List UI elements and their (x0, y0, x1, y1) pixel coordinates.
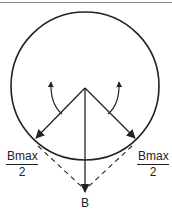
left-denominator: 2 (6, 165, 38, 180)
right-denominator: 2 (137, 165, 169, 180)
right-rotation-arrow-icon (108, 82, 119, 114)
right-numerator: Bmax (137, 150, 169, 165)
resultant-label: B (79, 197, 91, 209)
left-rotation-arrow-icon (51, 82, 62, 114)
phasor-diagram (0, 0, 172, 216)
right-dashed-construction (88, 146, 132, 187)
right-bmax-label: Bmax 2 (137, 150, 169, 180)
left-bmax-label: Bmax 2 (6, 150, 38, 180)
left-numerator: Bmax (6, 150, 38, 165)
left-dashed-construction (38, 146, 82, 187)
